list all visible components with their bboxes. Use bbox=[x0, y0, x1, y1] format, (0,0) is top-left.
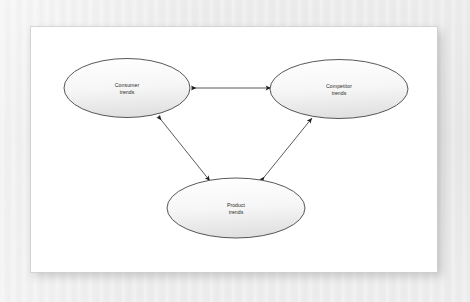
node-product-trends[interactable]: Product trends bbox=[167, 178, 305, 238]
node-consumer-trends-label-line1: Consumer bbox=[115, 82, 140, 88]
node-competitor-trends[interactable]: Competitor trends bbox=[270, 60, 408, 119]
edge-consumer-product bbox=[158, 116, 210, 181]
node-consumer-trends-shape bbox=[64, 59, 190, 118]
relationship-diagram: Consumer trends Competitor trends Produc… bbox=[0, 0, 470, 302]
edge-product-competitor bbox=[261, 118, 312, 181]
node-competitor-trends-label-line1: Competitor bbox=[326, 83, 352, 89]
node-product-trends-shape bbox=[167, 178, 305, 238]
scanned-page-canvas: Consumer trends Competitor trends Produc… bbox=[0, 0, 470, 302]
node-product-trends-label-line1: Product bbox=[227, 202, 246, 208]
node-consumer-trends-label-line2: trends bbox=[120, 89, 135, 95]
node-competitor-trends-shape bbox=[270, 60, 408, 119]
node-product-trends-label-line2: trends bbox=[229, 209, 244, 215]
node-competitor-trends-label-line2: trends bbox=[332, 90, 347, 96]
node-consumer-trends[interactable]: Consumer trends bbox=[64, 59, 190, 118]
